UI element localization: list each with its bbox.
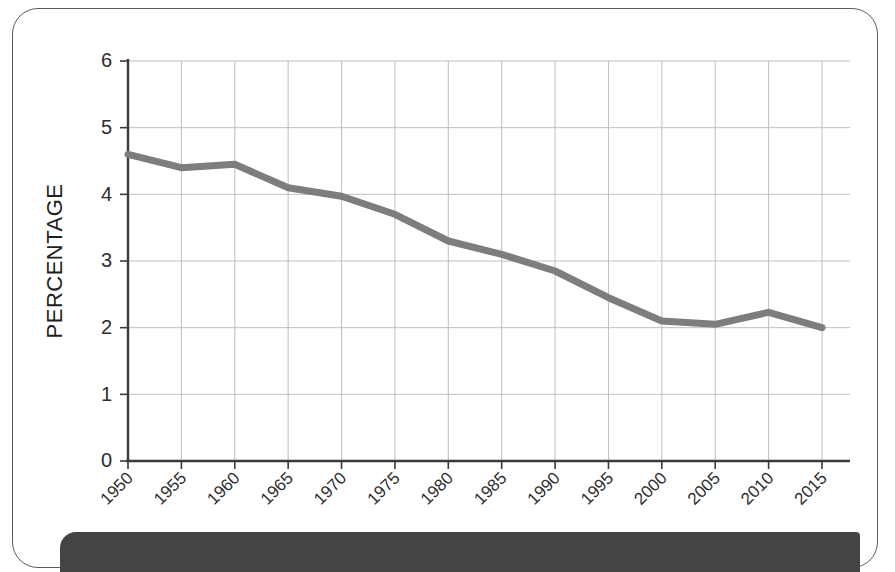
x-tick-label: 1965 (257, 468, 297, 508)
y-tick-label: 3 (101, 249, 112, 271)
x-tick-label: 1955 (150, 468, 190, 508)
y-tick-label: 1 (101, 383, 112, 405)
line-chart: 0123456 19501955196019651970197519801985… (0, 0, 895, 520)
y-tick-label: 0 (101, 449, 112, 471)
y-axis-tick-labels: 0123456 (101, 49, 112, 471)
x-tick-label: 1985 (470, 468, 510, 508)
chart-svg: 0123456 19501955196019651970197519801985… (0, 0, 895, 520)
x-tick-label: 1960 (203, 468, 243, 508)
y-tick-label: 2 (101, 316, 112, 338)
x-tick-label: 1970 (310, 468, 350, 508)
data-series-line (128, 154, 822, 327)
x-tick-label: 2015 (791, 468, 831, 508)
y-tick-label: 6 (101, 49, 112, 71)
x-tick-label: 1975 (364, 468, 404, 508)
y-tick-label: 4 (101, 183, 112, 205)
x-tick-label: 1950 (97, 468, 137, 508)
horizontal-gridlines (128, 61, 850, 394)
y-tick-label: 5 (101, 116, 112, 138)
x-tick-label: 1995 (577, 468, 617, 508)
x-tick-label: 1980 (417, 468, 457, 508)
x-tick-label: 2005 (684, 468, 724, 508)
bottom-caption-band (60, 532, 860, 572)
x-axis-tick-labels: 1950195519601965197019751980198519901995… (97, 468, 831, 508)
x-tick-label: 1990 (524, 468, 564, 508)
y-axis-title: PERCENTAGE (42, 184, 67, 339)
x-axis-tickmarks (128, 461, 822, 469)
x-tick-label: 2000 (630, 468, 670, 508)
x-tick-label: 2010 (737, 468, 777, 508)
